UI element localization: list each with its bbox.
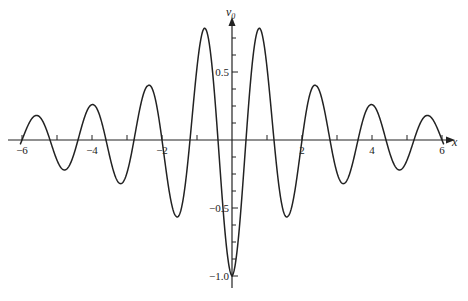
y-axis: 0.5−0.5−1.0 (209, 17, 238, 288)
x-tick-label: 4 (369, 144, 375, 156)
x-axis-label: x (451, 135, 458, 149)
line-chart: −6−4−2246 0.5−0.5−1.0 x v0 (0, 0, 468, 301)
x-tick-label: −2 (156, 144, 168, 156)
y-axis-label-sub: 0 (231, 12, 235, 21)
x-tick-label: 6 (439, 144, 445, 156)
x-tick-label: −6 (16, 144, 28, 156)
y-tick-label: 0.5 (215, 66, 229, 78)
y-tick-label: −1.0 (209, 270, 229, 282)
x-tick-label: −4 (86, 144, 98, 156)
y-axis-label: v0 (226, 5, 235, 21)
y-tick-label: −0.5 (209, 202, 229, 214)
